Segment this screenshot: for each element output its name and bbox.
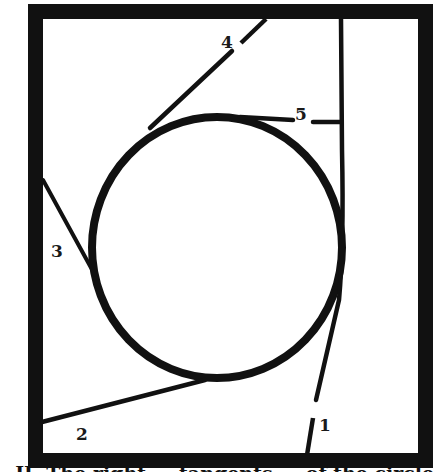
circle [92,117,342,378]
label-5: 5 [295,104,307,124]
label-3: 3 [51,241,63,261]
label-4: 4 [221,32,233,52]
tangent-line-1-lower [307,418,313,455]
label-1: 1 [319,415,331,435]
label-2: 2 [76,424,88,444]
tangent-line-4 [150,19,266,128]
figure-caption: . II. The right ... tangents ... of the … [2,462,437,472]
tangent-line-2 [42,380,205,422]
tangent-diagram: 1 2 3 4 5 [0,0,437,472]
